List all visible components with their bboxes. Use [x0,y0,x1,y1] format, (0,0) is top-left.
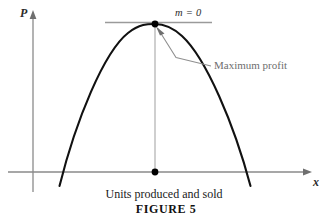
x-axis-arrowhead [303,169,312,176]
maximum-profit-annotation: Maximum profit [214,60,287,71]
optimal-units-dot [152,169,159,176]
slope-zero-label: m = 0 [175,8,202,19]
annotation-leader-line [158,28,212,66]
figure-container: P x m = 0 Maximum profit Units produced … [0,0,326,219]
axes-group [8,10,312,192]
y-axis-arrowhead [30,10,37,19]
y-axis-label: P [20,7,27,19]
x-axis-label: x [313,176,319,188]
figure-number-caption: FIGURE 5 [136,203,196,215]
annotation-leader-arrowhead [156,27,165,36]
x-axis-caption: Units produced and sold [106,188,223,200]
annotation-leader-group [156,27,211,67]
maximum-point-dot [152,21,159,28]
